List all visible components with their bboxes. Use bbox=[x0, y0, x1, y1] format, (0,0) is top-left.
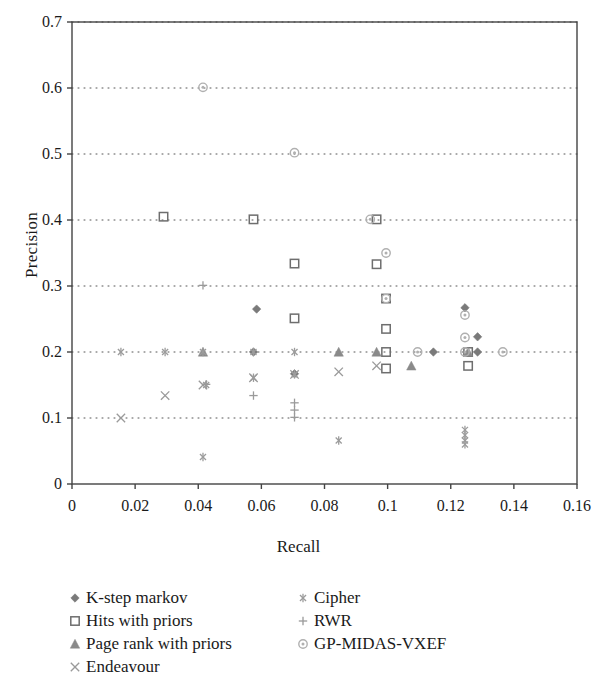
gridlines bbox=[72, 22, 577, 418]
legend-item[interactable]: GP-MIDAS-VXEF bbox=[292, 632, 446, 655]
legend-marker-icon bbox=[295, 613, 311, 629]
legend-marker-icon bbox=[67, 636, 83, 652]
data-point bbox=[249, 215, 257, 223]
series-gp-midas-vxef bbox=[199, 83, 507, 356]
legend-marker bbox=[64, 586, 86, 609]
data-point bbox=[117, 414, 125, 422]
legend-label: Page rank with priors bbox=[86, 635, 232, 652]
series-rwr bbox=[199, 281, 299, 421]
data-point bbox=[462, 440, 468, 448]
x-axis-label: Recall bbox=[0, 537, 597, 557]
legend-marker-icon bbox=[67, 590, 83, 606]
legend-item[interactable]: Cipher bbox=[292, 586, 446, 609]
data-point bbox=[473, 333, 481, 341]
data-point bbox=[382, 294, 390, 302]
data-point bbox=[335, 368, 343, 376]
data-point bbox=[290, 413, 298, 421]
legend-marker bbox=[292, 632, 314, 655]
legend-label: K-step markov bbox=[86, 589, 188, 606]
legend-item[interactable]: Page rank with priors bbox=[64, 632, 232, 655]
legend-marker bbox=[64, 632, 86, 655]
data-point bbox=[200, 453, 206, 461]
legend-item[interactable]: K-step markov bbox=[64, 586, 232, 609]
legend-marker-icon bbox=[295, 590, 311, 606]
series-hits-with-priors bbox=[159, 213, 472, 373]
data-point bbox=[366, 215, 374, 223]
data-point bbox=[290, 399, 298, 407]
data-point bbox=[161, 391, 169, 399]
data-point bbox=[199, 281, 207, 289]
series-k-step-markov bbox=[249, 304, 481, 378]
legend-item[interactable]: RWR bbox=[292, 609, 446, 632]
legend-column-left: K-step markovHits with priorsPage rank w… bbox=[64, 586, 232, 677]
data-point bbox=[499, 348, 507, 356]
data-point bbox=[372, 260, 380, 268]
series-cipher bbox=[118, 348, 468, 461]
legend-label: Endeavour bbox=[86, 658, 160, 675]
scatter-chart: Precision 00.10.20.30.40.50.60.7 00.020.… bbox=[0, 0, 597, 677]
legend-label: Cipher bbox=[314, 589, 360, 606]
data-point bbox=[407, 361, 416, 370]
legend-item[interactable]: Hits with priors bbox=[64, 609, 232, 632]
data-point bbox=[290, 148, 298, 156]
legend-label: RWR bbox=[314, 612, 352, 629]
data-point bbox=[290, 259, 298, 267]
data-point bbox=[382, 364, 390, 372]
data-point bbox=[199, 83, 207, 91]
legend-marker-icon bbox=[67, 613, 83, 629]
data-point bbox=[336, 436, 342, 444]
data-point bbox=[382, 249, 390, 257]
legend-marker bbox=[292, 586, 314, 609]
data-point bbox=[250, 374, 256, 382]
plot-area bbox=[0, 0, 597, 560]
legend-marker bbox=[64, 609, 86, 632]
data-points bbox=[117, 83, 507, 461]
data-point bbox=[461, 333, 469, 341]
legend-item[interactable]: Endeavour bbox=[64, 655, 232, 677]
data-point bbox=[290, 406, 298, 414]
legend-label: GP-MIDAS-VXEF bbox=[314, 635, 446, 652]
legend-label: Hits with priors bbox=[86, 612, 193, 629]
data-point bbox=[159, 213, 167, 221]
data-point bbox=[382, 325, 390, 333]
legend-marker-icon bbox=[295, 636, 311, 652]
data-point bbox=[249, 391, 257, 399]
data-point bbox=[118, 348, 124, 356]
data-point bbox=[252, 305, 260, 313]
data-point bbox=[290, 314, 298, 322]
data-point bbox=[473, 348, 481, 356]
plot-frame bbox=[67, 22, 577, 489]
data-point bbox=[464, 362, 472, 370]
chart-legend: K-step markovHits with priorsPage rank w… bbox=[0, 586, 597, 676]
series-endeavour bbox=[117, 362, 381, 423]
data-point bbox=[382, 348, 390, 356]
legend-marker bbox=[64, 655, 86, 677]
data-point bbox=[291, 348, 297, 356]
legend-column-right: CipherRWRGP-MIDAS-VXEF bbox=[292, 586, 446, 655]
legend-marker bbox=[292, 609, 314, 632]
data-point bbox=[429, 348, 437, 356]
legend-marker-icon bbox=[67, 659, 83, 675]
data-point bbox=[372, 362, 380, 370]
